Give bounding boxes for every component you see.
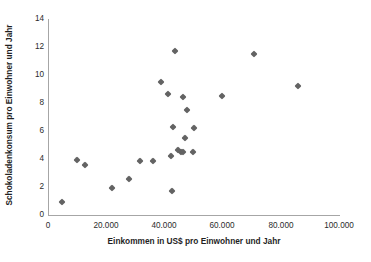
y-tick-label: 4	[18, 155, 44, 163]
data-point	[189, 148, 196, 155]
data-point	[164, 90, 171, 97]
plot-area	[48, 19, 340, 215]
data-point	[150, 158, 157, 165]
x-tick-label: 80.000	[268, 221, 293, 230]
data-point	[158, 78, 165, 85]
y-tick-label: 8	[18, 99, 44, 107]
data-point	[180, 94, 187, 101]
y-tick-label: 0	[18, 211, 44, 219]
data-point	[125, 176, 132, 183]
data-point	[136, 158, 143, 165]
scatter-chart: Schokoladenkonsum pro Einwohner und Jahr…	[0, 0, 371, 262]
data-point	[172, 47, 179, 54]
x-tick-label: 60.000	[209, 221, 234, 230]
y-axis-ticks: 14 12 10 8 6 4 2 0	[14, 0, 44, 262]
x-tick-label: 0	[46, 221, 51, 230]
y-axis-title-text: Schokoladenkonsum pro Einwohner und Jahr	[4, 24, 14, 205]
x-tick-label: 100.000	[324, 221, 354, 230]
data-point	[182, 134, 189, 141]
x-tick-label: 40.000	[151, 221, 176, 230]
data-point	[58, 199, 65, 206]
data-point	[183, 106, 190, 113]
data-point	[294, 83, 301, 90]
data-point	[82, 161, 89, 168]
data-point	[218, 92, 225, 99]
x-tick-label: 20.000	[93, 221, 118, 230]
data-point	[190, 124, 197, 131]
data-point	[250, 50, 257, 57]
data-point	[168, 188, 175, 195]
y-tick-label: 10	[18, 71, 44, 79]
x-axis-line	[48, 215, 340, 216]
y-tick-label: 2	[18, 183, 44, 191]
y-tick-label: 6	[18, 127, 44, 135]
y-tick-label: 14	[18, 15, 44, 23]
data-point	[74, 156, 81, 163]
data-point	[169, 123, 176, 130]
data-point	[109, 184, 116, 191]
x-axis-title: Einkommen in US$ pro Einwohner und Jahr	[48, 236, 340, 246]
y-tick-label: 12	[18, 43, 44, 51]
data-point	[167, 152, 174, 159]
